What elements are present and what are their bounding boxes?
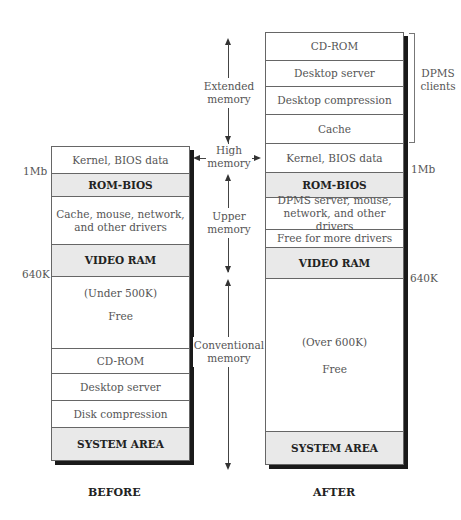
- conventional-arrow-line: [228, 285, 229, 463]
- label: (Over 600K): [302, 336, 367, 349]
- label: Desktop server: [294, 67, 375, 80]
- label: Free: [322, 363, 347, 376]
- after-kernel-bios-segment: Kernel, BIOS data: [266, 144, 403, 173]
- after-memory-column: CD-ROM Desktop server Desktop compressio…: [265, 32, 404, 465]
- before-rom-bios-segment: ROM-BIOS: [52, 174, 189, 197]
- dpms-clients-bracket: [409, 33, 415, 143]
- after-video-ram-segment: VIDEO RAM: [266, 248, 403, 279]
- after-1mb-marker: 1Mb: [411, 163, 435, 176]
- label: Kernel, BIOS data: [286, 152, 382, 165]
- label: VIDEO RAM: [299, 257, 370, 270]
- before-free-segment: (Under 500K)Free: [52, 277, 189, 349]
- upper-down-arrow-icon: [225, 266, 231, 273]
- label: CD-ROM: [97, 355, 144, 368]
- label: CD-ROM: [311, 40, 358, 53]
- label: Conventional: [193, 339, 265, 352]
- before-drivers-segment: Cache, mouse, network,and other drivers: [52, 197, 189, 245]
- after-desktop-compression-segment: Desktop compression: [266, 87, 403, 115]
- before-1mb-marker: 1Mb: [23, 165, 47, 178]
- dpms-clients-label: DPMS clients: [418, 67, 458, 93]
- before-kernel-bios-segment: Kernel, BIOS data: [52, 147, 189, 174]
- after-system-area-segment: SYSTEM AREA: [266, 432, 403, 464]
- label: ROM-BIOS: [302, 179, 366, 192]
- before-video-ram-segment: VIDEO RAM: [52, 245, 189, 277]
- high-memory-label: High memory: [206, 144, 252, 170]
- label: clients: [418, 80, 458, 93]
- after-free-segment: (Over 600K)Free: [266, 279, 403, 432]
- after-640k-marker: 640K: [410, 272, 438, 285]
- label: Desktop compression: [277, 94, 391, 107]
- label: (Under 500K): [84, 287, 157, 300]
- label: Disk compression: [73, 408, 167, 421]
- label: SYSTEM AREA: [291, 442, 378, 455]
- label: Free for more drivers: [277, 232, 392, 245]
- label: Kernel, BIOS data: [72, 154, 168, 167]
- before-cdrom-segment: CD-ROM: [52, 349, 189, 374]
- label: memory: [198, 93, 260, 106]
- label: memory: [200, 223, 258, 236]
- label: VIDEO RAM: [85, 254, 156, 267]
- label: Free: [108, 310, 133, 323]
- label: memory: [193, 352, 265, 365]
- before-desktop-server-segment: Desktop server: [52, 374, 189, 401]
- high-right-arrow-icon: [254, 155, 261, 161]
- label: Extended: [198, 80, 260, 93]
- after-caption: AFTER: [313, 486, 355, 499]
- label: Desktop server: [80, 381, 161, 394]
- label: ROM-BIOS: [88, 179, 152, 192]
- after-cache-segment: Cache: [266, 115, 403, 144]
- label: memory: [206, 157, 252, 170]
- before-memory-column: Kernel, BIOS data ROM-BIOS Cache, mouse,…: [51, 146, 190, 461]
- before-disk-compression-segment: Disk compression: [52, 401, 189, 428]
- after-dpms-drivers-segment: DPMS server, mouse,network, and other dr…: [266, 198, 403, 230]
- before-640k-marker: 640K: [22, 268, 50, 281]
- conventional-memory-label: Conventional memory: [193, 337, 265, 367]
- label: and other drivers: [74, 221, 167, 234]
- upper-memory-label: Upper memory: [200, 208, 258, 238]
- label: Cache: [318, 123, 351, 136]
- label: Cache, mouse, network,: [56, 208, 184, 221]
- high-left-arrow-icon: [193, 155, 200, 161]
- after-cdrom-segment: CD-ROM: [266, 33, 403, 61]
- label: SYSTEM AREA: [77, 438, 164, 451]
- label: Upper: [200, 210, 258, 223]
- label: DPMS server, mouse,: [277, 194, 391, 207]
- label: DPMS: [418, 67, 458, 80]
- before-caption: BEFORE: [88, 486, 141, 499]
- before-system-area-segment: SYSTEM AREA: [52, 428, 189, 460]
- conventional-down-arrow-icon: [225, 463, 231, 470]
- after-desktop-server-segment: Desktop server: [266, 61, 403, 87]
- after-free-drivers-segment: Free for more drivers: [266, 230, 403, 248]
- label: High: [206, 144, 252, 157]
- extended-down-arrow-icon: [225, 136, 231, 143]
- extended-memory-label: Extended memory: [198, 78, 260, 108]
